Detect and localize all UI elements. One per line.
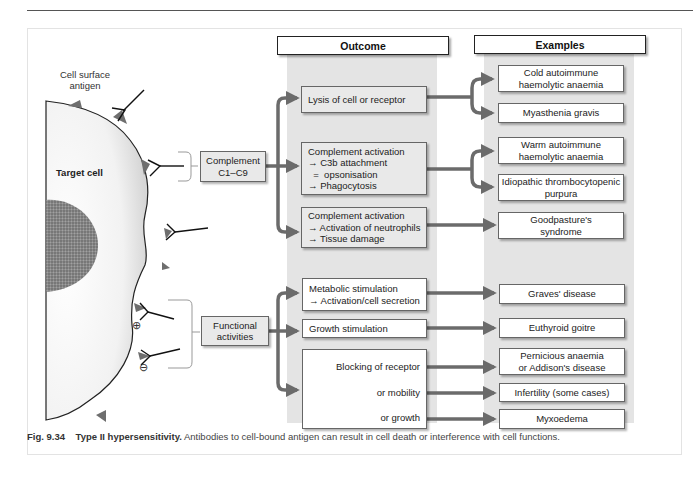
example-myxoedema: Myxoedema [499, 409, 625, 429]
example-warm-aiha: Warm autoimmune haemolytic anaemia [498, 137, 624, 164]
plus-sign-icon: ⊕ [132, 320, 141, 331]
minus-sign-icon: ⊖ [139, 362, 148, 373]
complement-arrows [265, 98, 297, 232]
figure-number: Fig. 9.34 [27, 431, 65, 442]
target-cell-shape [46, 101, 148, 420]
example-itp: Idiopathic thrombocytopenic purpura [498, 174, 624, 201]
functional-arrows [268, 293, 297, 390]
example-goodpasture: Goodpasture's syndrome [498, 212, 624, 239]
outcome-metabolic-stimulation: Metabolic stimulation → Activation/cell … [302, 278, 427, 311]
example-infertility: Infertility (some cases) [499, 383, 625, 402]
example-graves: Graves' disease [499, 284, 625, 304]
example-myasthenia-gravis: Myasthenia gravis [498, 103, 624, 123]
example-pernicious-anaemia: Pernicious anaemia or Addison's disease [499, 348, 625, 375]
example-euthyroid-goitre: Euthyroid goitre [499, 318, 625, 338]
target-cell-label: Target cell [56, 167, 103, 178]
outcome-to-example-arrows [427, 79, 494, 419]
outcome-growth-stimulation: Growth stimulation [302, 319, 427, 338]
antigen-label-line2: antigen [69, 80, 100, 91]
outcome-opsonisation: Complement activation → C3b attachment =… [301, 142, 427, 195]
outcome-lysis: Lysis of cell or receptor [301, 86, 427, 113]
caption-text: Antibodies to cell-bound antigen can res… [184, 431, 560, 442]
figure-title: Type II hypersensitivity. [76, 431, 182, 442]
complement-box: Complement C1–C9 [200, 151, 266, 182]
examples-header: Examples [474, 35, 646, 54]
cell-surface-antigen-label: Cell surface antigen [50, 69, 120, 91]
outcome-header: Outcome [277, 36, 449, 55]
figure-caption: Fig. 9.34 Type II hypersensitivity. Anti… [27, 431, 560, 442]
outcome-blocking: Blocking of receptor or mobility or grow… [302, 349, 427, 429]
outcome-neutrophil-activation: Complement activation → Activation of ne… [301, 207, 427, 248]
antigen-label-line1: Cell surface [60, 69, 110, 80]
functional-activities-box: Functional activities [201, 316, 269, 346]
example-cold-aiha: Cold autoimmune haemolytic anaemia [498, 65, 624, 92]
